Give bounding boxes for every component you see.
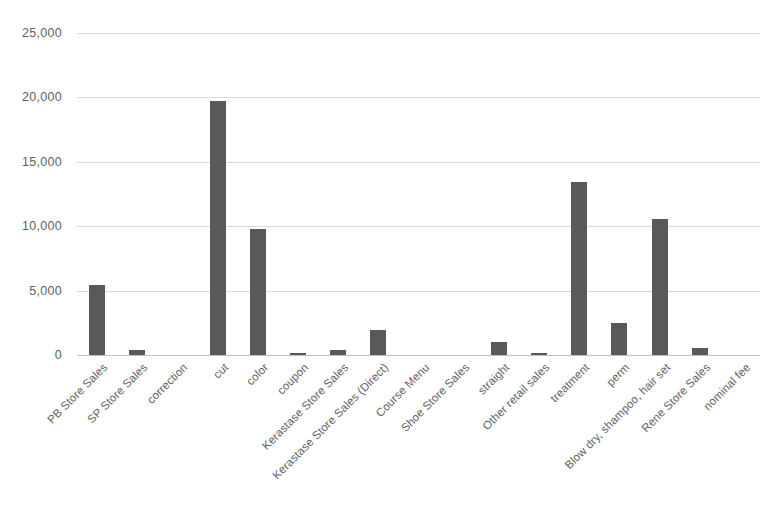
x-axis-category-label: Shoe Store Sales: [398, 361, 471, 434]
bar: [129, 350, 145, 355]
bar: [692, 348, 708, 355]
y-axis-labels: 05,00010,00015,00020,00025,000: [0, 0, 70, 524]
axis-line-zero: [77, 355, 760, 356]
bar: [571, 182, 587, 355]
x-axis-category-label: coupon: [275, 361, 311, 397]
x-axis-category-label: color: [244, 361, 270, 387]
y-axis-tick-label: 25,000: [22, 26, 62, 40]
bar: [250, 229, 266, 355]
x-axis-category-label: cut: [211, 361, 231, 381]
x-axis-tick-label: color: [244, 361, 270, 387]
bar: [89, 285, 105, 355]
x-axis-tick-label: Shoe Store Sales: [398, 361, 471, 434]
bar: [290, 353, 306, 355]
x-axis-tick-label: Rene Store Sales: [639, 361, 712, 434]
bar: [611, 323, 627, 355]
bar: [491, 342, 507, 355]
bar: [210, 101, 226, 355]
x-axis-category-label: treatment: [548, 361, 591, 404]
x-axis-category-label: straight: [476, 361, 512, 397]
bar-chart: 05,00010,00015,00020,00025,000 PB Store …: [0, 0, 774, 524]
bars: [77, 33, 760, 355]
bar: [330, 350, 346, 355]
x-axis-tick-label: correction: [145, 361, 190, 406]
y-axis-tick-label: 0: [55, 348, 62, 362]
x-axis-tick-label: perm: [605, 361, 632, 388]
y-axis-tick-label: 15,000: [22, 155, 62, 169]
x-axis-labels: PB Store SalesSP Store Salescorrectioncu…: [77, 357, 760, 517]
x-axis-tick-label: treatment: [548, 361, 591, 404]
bar: [652, 219, 668, 355]
bar: [370, 330, 386, 355]
y-axis-tick-label: 20,000: [22, 90, 62, 104]
plot-area: [77, 33, 760, 355]
bar: [531, 353, 547, 355]
x-axis-tick-label: coupon: [275, 361, 311, 397]
x-axis-category-label: Rene Store Sales: [639, 361, 712, 434]
x-axis-category-label: perm: [605, 361, 632, 388]
x-axis-tick-label: straight: [476, 361, 512, 397]
x-axis-category-label: correction: [145, 361, 190, 406]
y-axis-tick-label: 5,000: [29, 284, 62, 298]
y-axis-tick-label: 10,000: [22, 219, 62, 233]
x-axis-tick-label: cut: [211, 361, 231, 381]
